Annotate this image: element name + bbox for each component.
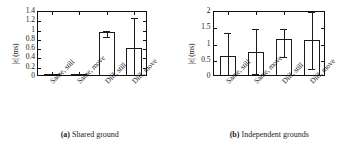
y-tick-label: 0.6 <box>26 44 35 52</box>
y-tick-label: 0.4 <box>26 54 35 62</box>
y-tick-label: 0.8 <box>26 35 35 43</box>
error-bar-cap <box>224 33 231 34</box>
y-tick-label: 1.2 <box>26 17 35 25</box>
y-axis-tick-mark <box>38 58 41 59</box>
error-bar <box>312 12 313 69</box>
y-axis-tick-mark <box>38 31 41 32</box>
y-axis-tick-mark <box>214 28 217 29</box>
x-axis-tick-mark <box>228 12 229 15</box>
panel-caption: (a) Shared ground <box>0 130 180 139</box>
y-tick-label: 1 <box>31 26 35 34</box>
y-axis-tick-mark <box>143 21 146 22</box>
caption-tag: (b) <box>230 130 240 139</box>
error-bar <box>256 29 257 74</box>
y-tick-label: 1.5 <box>201 24 210 32</box>
error-bar <box>284 29 285 57</box>
panel-caption: (b) Independent grounds <box>180 130 359 139</box>
y-axis-tick-mark <box>38 40 41 41</box>
error-bar-cap <box>280 29 287 30</box>
error-bar-cap <box>308 69 315 70</box>
panel-shared-ground: |ε| (ms) 00.20.40.60.811.21.4 Same, stil… <box>0 0 180 150</box>
error-bar-cap <box>308 12 315 13</box>
y-axis-tick-mark <box>321 28 324 29</box>
error-bar-cap <box>252 29 259 30</box>
y-axis-tick-mark <box>321 61 324 62</box>
y-axis-tick-mark <box>214 61 217 62</box>
error-bar <box>134 18 135 75</box>
y-axis-tick-mark <box>38 49 41 50</box>
error-bar-cap <box>103 31 110 32</box>
error-bar-cap <box>103 37 110 38</box>
caption-tag: (a) <box>61 130 70 139</box>
x-axis-tick-mark <box>134 12 135 15</box>
error-bar-cap <box>131 18 138 19</box>
x-axis-tick-mark <box>79 12 80 15</box>
y-tick-label: 0.2 <box>26 63 35 71</box>
y-axis-tick-mark <box>38 21 41 22</box>
y-tick-label: 0 <box>207 72 211 80</box>
y-axis-tick-mark <box>214 45 217 46</box>
x-axis-tick-mark <box>52 12 53 15</box>
figure-container: |ε| (ms) 00.20.40.60.811.21.4 Same, stil… <box>0 0 359 150</box>
caption-text: Independent grounds <box>241 130 308 139</box>
error-bar <box>228 33 229 75</box>
y-tick-label: 0.5 <box>201 56 210 64</box>
y-tick-label: 2 <box>207 7 211 15</box>
y-axis-tick-mark <box>143 40 146 41</box>
y-tick-label: 1 <box>207 40 211 48</box>
x-axis-tick-mark <box>107 12 108 15</box>
y-axis-tick-labels: 00.20.40.60.811.21.4 <box>0 11 35 76</box>
y-axis-tick-mark <box>38 68 41 69</box>
y-axis-tick-mark <box>321 45 324 46</box>
y-axis-tick-mark <box>143 49 146 50</box>
x-axis-tick-mark <box>284 12 285 15</box>
y-tick-label: 1.4 <box>26 7 35 15</box>
y-axis-tick-mark <box>143 31 146 32</box>
y-tick-label: 0 <box>31 72 35 80</box>
y-axis-tick-labels: 00.511.52 <box>180 11 211 76</box>
caption-text: Shared ground <box>72 130 119 139</box>
panel-independent-grounds: |ε| (ms) 00.511.52 Same, stillSame, move… <box>180 0 359 150</box>
y-axis-tick-mark <box>143 58 146 59</box>
x-axis-tick-mark <box>256 12 257 15</box>
